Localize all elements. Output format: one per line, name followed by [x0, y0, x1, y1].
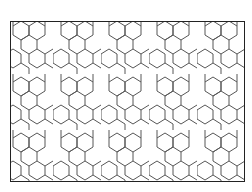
tiling-pattern — [11, 22, 245, 182]
pattern-frame — [10, 21, 245, 182]
